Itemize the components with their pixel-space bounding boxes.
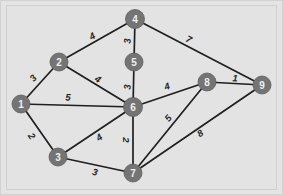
graph-node-5[interactable]: 5 (125, 53, 143, 71)
graph-canvas: 123456789 352443734324581 (0, 0, 283, 195)
node-circle-8[interactable] (198, 73, 216, 91)
node-circle-6[interactable] (124, 98, 143, 117)
node-circle-5[interactable] (125, 53, 143, 71)
graph-node-6[interactable]: 6 (124, 98, 143, 117)
node-circle-1[interactable] (12, 95, 30, 113)
node-circle-3[interactable] (49, 148, 67, 166)
node-circle-4[interactable] (126, 10, 145, 29)
graph-node-4[interactable]: 4 (126, 10, 145, 29)
node-circle-2[interactable] (50, 53, 68, 71)
node-circle-7[interactable] (124, 164, 142, 182)
graph-node-1[interactable]: 1 (12, 95, 30, 113)
graph-node-2[interactable]: 2 (50, 53, 68, 71)
graph-node-8[interactable]: 8 (198, 73, 216, 91)
graph-node-7[interactable]: 7 (124, 164, 142, 182)
graph-diagram-panel: 123456789 352443734324581 (0, 0, 283, 195)
graph-node-3[interactable]: 3 (49, 148, 67, 166)
graph-node-9[interactable]: 9 (253, 76, 271, 94)
node-circle-9[interactable] (253, 76, 271, 94)
